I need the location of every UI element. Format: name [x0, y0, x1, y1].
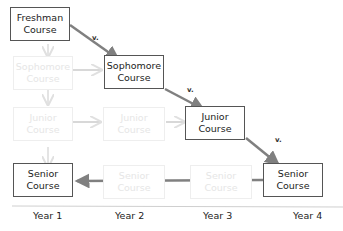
box-line1: Senior: [278, 168, 308, 180]
edge-label: v.: [187, 86, 194, 94]
box-line1: Freshman: [17, 12, 63, 24]
box-line1: Sophomore: [107, 60, 161, 72]
edge-label: v.: [92, 34, 99, 42]
timeline-axis: [12, 206, 343, 207]
box-line2: Course: [26, 73, 59, 85]
active-arrow: [70, 25, 118, 59]
box-line1: Senior: [28, 168, 58, 180]
box-line1: Junior: [201, 111, 228, 123]
freshman-course-box: Freshman Course: [10, 7, 70, 41]
box-line2: Course: [117, 124, 150, 136]
axis-label-year4: Year 4: [293, 210, 322, 221]
box-line2: Course: [23, 24, 56, 36]
axis-label-year3: Year 3: [203, 210, 232, 221]
box-line2: Course: [198, 123, 231, 135]
box-line1: Junior: [120, 112, 147, 124]
box-line2: Course: [117, 72, 150, 84]
box-line1: Sophomore: [16, 61, 70, 73]
box-line2: Course: [204, 182, 237, 194]
box-line1: Senior: [206, 170, 236, 182]
active-arrow: [246, 138, 278, 164]
faded-senior-box-year2: Senior Course: [103, 165, 165, 199]
junior-course-box: Junior Course: [185, 106, 245, 140]
axis-label-year2: Year 2: [115, 210, 144, 221]
box-line1: Senior: [119, 170, 149, 182]
sophomore-course-box: Sophomore Course: [104, 55, 164, 89]
box-line1: Junior: [29, 112, 56, 124]
senior-course-box-year4: Senior Course: [263, 163, 323, 197]
faded-senior-box-year3: Senior Course: [190, 165, 252, 199]
box-line2: Course: [26, 180, 59, 192]
box-line2: Course: [117, 182, 150, 194]
senior-course-box-year1: Senior Course: [13, 163, 73, 197]
faded-sophomore-box: Sophomore Course: [13, 56, 73, 90]
box-line2: Course: [276, 180, 309, 192]
edge-label: v.: [275, 136, 282, 144]
faded-junior-box-year2: Junior Course: [103, 107, 165, 141]
box-line2: Course: [26, 124, 59, 136]
faded-junior-box-year1: Junior Course: [13, 107, 73, 141]
axis-label-year1: Year 1: [33, 210, 62, 221]
